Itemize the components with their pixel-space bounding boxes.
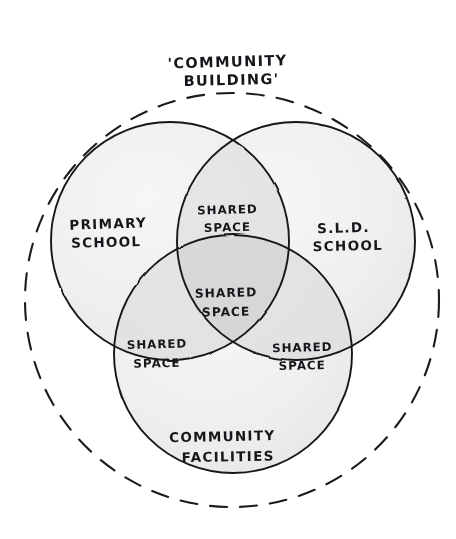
venn-diagram-figure: 'COMMUNITY BUILDING' PRIMARY SCHOOL S.L.… xyxy=(0,0,456,539)
primary-school-label-line2: SCHOOL xyxy=(71,233,142,251)
community-facilities-label-line2: FACILITIES xyxy=(182,448,275,466)
shared-space-center-label-line1: SHARED xyxy=(195,285,258,301)
shared-space-left-label-line2: SPACE xyxy=(133,356,180,371)
shared-space-right-label-line1: SHARED xyxy=(272,340,333,356)
venn-diagram-canvas: 'COMMUNITY BUILDING' PRIMARY SCHOOL S.L.… xyxy=(0,0,456,539)
shared-space-left-label-line1: SHARED xyxy=(127,336,188,352)
diagram-title: 'COMMUNITY BUILDING' xyxy=(167,52,287,89)
community-facilities-label-line1: COMMUNITY xyxy=(169,427,276,445)
sld-school-label-line1: S.L.D. xyxy=(317,219,370,236)
shared-space-top-label-line1: SHARED xyxy=(197,202,258,218)
diagram-title-line2: BUILDING' xyxy=(183,71,279,89)
shared-space-right-label-line2: SPACE xyxy=(279,358,326,373)
shared-space-center-label-line2: SPACE xyxy=(202,305,251,320)
primary-school-label-line1: PRIMARY xyxy=(69,214,147,232)
shared-space-top-label-line2: SPACE xyxy=(204,220,251,235)
sld-school-label-line2: SCHOOL xyxy=(313,237,384,254)
diagram-title-line1: 'COMMUNITY xyxy=(167,52,287,71)
